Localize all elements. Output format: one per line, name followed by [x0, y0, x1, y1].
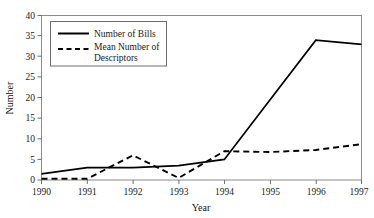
x-tick-label-1995: 1995 — [261, 187, 280, 197]
series-line-mean-number-of-descriptors — [42, 144, 362, 179]
legend: Number of Bills Mean Number of Descripto… — [51, 22, 167, 67]
x-tick-label-1994: 1994 — [215, 187, 234, 197]
x-tick-label-1991: 1991 — [78, 187, 97, 197]
chart-container: 0 5 10 15 20 25 30 35 40 Number 1990 199… — [0, 0, 374, 218]
x-tick-label-1992: 1992 — [124, 187, 143, 197]
y-tick-label-0: 0 — [30, 175, 35, 185]
y-tick-label-30: 30 — [26, 52, 36, 62]
x-axis-title: Year — [192, 202, 211, 213]
legend-label-mean-descriptors-line1: Mean Number of — [94, 42, 160, 52]
x-tick-label-1996: 1996 — [307, 187, 326, 197]
y-tick-label-35: 35 — [26, 31, 36, 41]
y-tick-label-40: 40 — [26, 11, 36, 21]
y-tick-label-10: 10 — [26, 134, 36, 144]
x-tick-label-1997: 1997 — [350, 187, 369, 197]
y-tick-label-20: 20 — [26, 93, 36, 103]
y-tick-label-5: 5 — [30, 155, 35, 165]
y-axis-tick-labels: 0 5 10 15 20 25 30 35 40 — [26, 11, 36, 186]
legend-label-number-of-bills: Number of Bills — [94, 29, 156, 39]
y-axis-title: Number — [4, 81, 15, 114]
y-tick-label-25: 25 — [26, 72, 36, 82]
x-axis-tick-labels: 1990 1991 1992 1993 1994 1995 1996 1997 — [32, 187, 369, 197]
legend-label-mean-descriptors-line2: Descriptors — [94, 53, 138, 63]
x-tick-label-1990: 1990 — [32, 187, 51, 197]
x-tick-label-1993: 1993 — [169, 187, 188, 197]
line-chart: 0 5 10 15 20 25 30 35 40 Number 1990 199… — [0, 0, 374, 218]
x-axis-ticks — [42, 180, 362, 184]
y-axis-ticks — [38, 16, 42, 181]
y-tick-label-15: 15 — [26, 113, 36, 123]
